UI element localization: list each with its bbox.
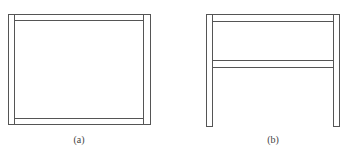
caption-b: (b) xyxy=(253,134,293,145)
frame-diagrams xyxy=(0,0,347,157)
frame-a-bottom-rail xyxy=(15,119,144,125)
frame-a-top-rail xyxy=(15,15,144,21)
frame-a xyxy=(9,15,151,125)
caption-a: (a) xyxy=(59,134,99,145)
frame-b-middle-rail xyxy=(213,61,334,68)
frame-a-left-post xyxy=(9,15,15,125)
frame-b-right-post xyxy=(334,15,340,127)
frame-b xyxy=(207,15,340,127)
frame-b-left-post xyxy=(207,15,213,127)
frame-b-top-rail xyxy=(207,15,340,22)
frame-a-right-post xyxy=(144,15,151,125)
